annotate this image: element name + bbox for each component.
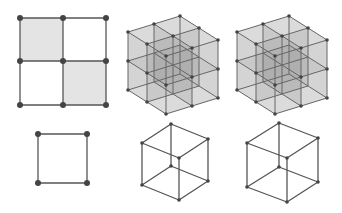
lattice-cube-2x2x2-right — [235, 14, 329, 116]
cube-edge — [171, 124, 208, 139]
cube-edge — [287, 138, 318, 158]
lattice-node — [145, 71, 149, 75]
cube-vertex-node — [177, 156, 181, 160]
lattice-node — [325, 96, 329, 100]
cube-edge — [179, 181, 208, 200]
lattice-node — [273, 54, 277, 58]
lattice-node — [152, 22, 156, 26]
lattice-node — [190, 46, 194, 50]
lattice-node — [216, 38, 220, 42]
lattice-node — [178, 14, 182, 18]
grid-node — [60, 102, 66, 108]
cube-vertex-node — [277, 165, 281, 169]
cube-edge — [287, 182, 318, 202]
lattice-node — [261, 22, 265, 26]
lattice-node — [254, 71, 258, 75]
cube-vertex-node — [316, 136, 320, 140]
lattice-node — [299, 46, 303, 50]
lattice-node — [171, 34, 175, 38]
grid-node — [103, 58, 109, 64]
unit-cube-wireframe-left — [140, 122, 210, 202]
cube-edge — [142, 143, 179, 158]
unit-cube-wireframe-right — [245, 121, 320, 204]
cube-edge — [142, 166, 171, 185]
cube-edge — [142, 124, 171, 143]
lattice-node — [164, 83, 168, 87]
cube-vertex-node — [140, 141, 144, 145]
lattice-node — [126, 88, 130, 92]
lattice-node — [254, 42, 258, 46]
lattice-node — [273, 83, 277, 87]
cube-vertex-node — [169, 164, 173, 168]
lattice-node — [216, 96, 220, 100]
square-corner-node — [84, 180, 90, 186]
cube-vertex-node — [285, 156, 289, 160]
lattice-node — [164, 54, 168, 58]
cube-vertex-node — [206, 179, 210, 183]
square-corner-node — [84, 131, 90, 137]
lattice-node — [299, 75, 303, 79]
lattice-node — [164, 112, 168, 116]
lattice-node — [126, 30, 130, 34]
cube-vertex-node — [316, 180, 320, 184]
lattice-node — [306, 26, 310, 30]
cube-edge — [247, 143, 287, 158]
cube-edge — [179, 139, 208, 158]
cube-vertex-node — [169, 122, 173, 126]
lattice-node — [197, 26, 201, 30]
lattice-node — [325, 67, 329, 71]
cube-edge — [171, 166, 208, 181]
lattice-node — [190, 75, 194, 79]
shaded-cell — [63, 61, 106, 105]
grid-node — [17, 15, 23, 21]
lattice-node — [145, 42, 149, 46]
lattice-node — [235, 88, 239, 92]
lattice-node — [325, 38, 329, 42]
checkerboard-grid-2x2 — [17, 15, 109, 108]
cube-vertex-node — [285, 200, 289, 204]
lattice-node — [126, 59, 130, 63]
lattice-node — [235, 59, 239, 63]
lattice-node — [273, 112, 277, 116]
cube-vertex-node — [245, 185, 249, 189]
lattice-node — [299, 104, 303, 108]
lattice-cube-2x2x2-left — [126, 14, 220, 116]
cube-edge — [142, 185, 179, 200]
cube-vertex-node — [245, 141, 249, 145]
lattice-node — [216, 67, 220, 71]
lattice-node — [235, 30, 239, 34]
cube-edge — [279, 123, 318, 138]
square-corner-node — [35, 180, 41, 186]
grid-node — [60, 15, 66, 21]
lattice-node — [145, 100, 149, 104]
figure-canvas — [0, 0, 342, 213]
square-corner-node — [35, 131, 41, 137]
cube-edge — [279, 167, 318, 182]
cube-vertex-node — [140, 183, 144, 187]
unit-square — [35, 131, 90, 186]
grid-node — [17, 58, 23, 64]
cube-vertex-node — [206, 137, 210, 141]
cube-vertex-node — [277, 121, 281, 125]
lattice-node — [190, 104, 194, 108]
grid-node — [103, 102, 109, 108]
grid-node — [60, 58, 66, 64]
grid-node — [103, 15, 109, 21]
lattice-node — [280, 34, 284, 38]
grid-node — [17, 102, 23, 108]
shaded-cell — [20, 18, 63, 61]
cube-edge — [247, 187, 287, 202]
cube-vertex-node — [177, 198, 181, 202]
cube-edge — [247, 167, 279, 187]
lattice-node — [254, 100, 258, 104]
cube-edge — [247, 123, 279, 143]
lattice-node — [287, 14, 291, 18]
